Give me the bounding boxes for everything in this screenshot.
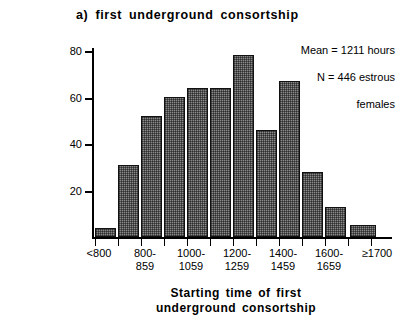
bar-7 — [233, 55, 254, 237]
x-tick-label-4: 1400- 1459 — [260, 247, 306, 272]
x-tick-2 — [141, 239, 142, 246]
bar-12 — [350, 225, 376, 237]
bar-9 — [279, 81, 300, 237]
x-tick-0 — [95, 239, 96, 246]
bar-3 — [141, 116, 162, 237]
bar-4 — [164, 97, 185, 237]
x-tick-11 — [348, 239, 349, 246]
x-tick-labels: <800 800- 859 1000- 1059 1200- 1259 1400… — [0, 247, 411, 281]
bar-2 — [118, 165, 139, 237]
panel-title: a) first underground consortship — [76, 8, 299, 22]
bar-1 — [95, 228, 116, 237]
x-tick-3 — [164, 239, 165, 246]
x-tick-5 — [210, 239, 211, 246]
y-tick-label-60: 60 — [52, 93, 82, 104]
bar-11 — [325, 207, 346, 237]
x-axis-title-line1: Starting time of first — [86, 286, 386, 301]
x-tick-label-1: 800- 859 — [122, 247, 168, 272]
figure-panel: a) first underground consortship Mean = … — [0, 0, 411, 324]
bar-5 — [187, 88, 208, 237]
y-tick-60 — [85, 98, 92, 100]
x-tick-7 — [256, 239, 257, 246]
x-tick-label-2: 1000- 1059 — [168, 247, 214, 272]
x-tick-label-3: 1200- 1259 — [214, 247, 260, 272]
x-tick-4 — [187, 239, 188, 246]
x-axis-title: Starting time of first underground conso… — [86, 286, 386, 316]
x-tick-label-0: <800 — [76, 247, 122, 260]
y-tick-label-40: 40 — [52, 139, 82, 150]
bar-6 — [210, 88, 231, 237]
x-tick-1 — [118, 239, 119, 246]
y-tick-20 — [85, 191, 92, 193]
x-axis-line — [92, 237, 392, 239]
x-tick-12 — [371, 239, 372, 246]
x-axis-title-line2: underground consortship — [86, 301, 386, 316]
x-tick-10 — [325, 239, 326, 246]
y-tick-label-80: 80 — [52, 46, 82, 57]
bar-10 — [302, 172, 323, 237]
x-tick-label-5: 1600- 1659 — [306, 247, 352, 272]
bar-8 — [256, 130, 277, 237]
x-tick-6 — [233, 239, 234, 246]
bar-series — [92, 50, 392, 237]
y-tick-label-20: 20 — [52, 186, 82, 197]
y-tick-40 — [85, 144, 92, 146]
y-tick-80 — [85, 51, 92, 53]
x-tick-9 — [302, 239, 303, 246]
x-tick-label-6: ≥1700 — [352, 247, 402, 260]
x-tick-8 — [279, 239, 280, 246]
